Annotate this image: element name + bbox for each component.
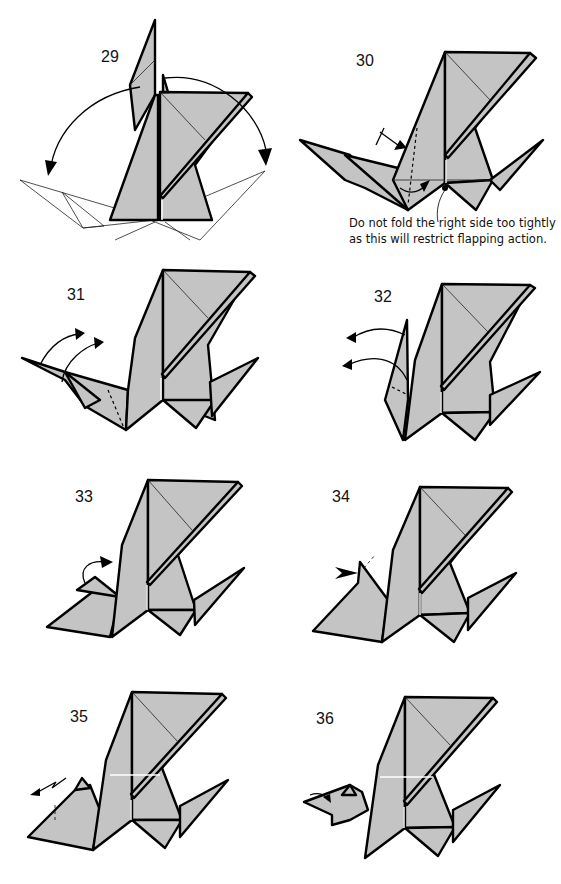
step-31: 31 (0, 250, 290, 450)
step-31-diagram (0, 250, 290, 450)
step-29: 29 (0, 0, 290, 240)
step-35: 35 (0, 670, 290, 884)
step-36: 36 (290, 670, 561, 884)
step-33: 33 (0, 460, 290, 660)
step-32: 32 (290, 250, 561, 450)
step-34-diagram (290, 460, 561, 660)
note-line-2: as this will restrict flapping action. (349, 231, 559, 247)
step-33-diagram (0, 460, 290, 660)
step-36-diagram (290, 670, 561, 884)
step-35-diagram (0, 670, 290, 884)
step-30-diagram (290, 0, 561, 250)
step-29-diagram (0, 0, 290, 240)
step-32-diagram (290, 250, 561, 450)
step-30: 30 Do not fold the right side too tightl… (290, 0, 561, 250)
fold-note: Do not fold the right side too tightly a… (349, 215, 559, 247)
note-line-1: Do not fold the right side too tightly (349, 215, 559, 231)
step-34: 34 (290, 460, 561, 660)
